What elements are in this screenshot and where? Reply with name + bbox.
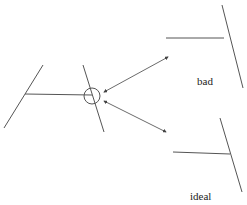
original-junction — [4, 65, 104, 132]
left-slanted-line — [4, 65, 43, 128]
ideal-horizontal-line — [173, 152, 230, 154]
connecting-horizontal-line — [25, 94, 92, 95]
ideal-label: ideal — [190, 191, 211, 202]
arrow-to-ideal — [104, 101, 166, 132]
arrow-to-bad — [104, 57, 168, 92]
ideal-example — [173, 118, 242, 192]
bad-slanted-line — [222, 5, 243, 88]
junction-highlight-circle — [84, 88, 100, 104]
ideal-slanted-line — [220, 118, 242, 192]
bad-label: bad — [197, 76, 213, 87]
diagram-canvas: bad ideal — [0, 0, 247, 205]
right-slanted-line — [83, 65, 104, 132]
diagram-svg — [0, 0, 247, 205]
